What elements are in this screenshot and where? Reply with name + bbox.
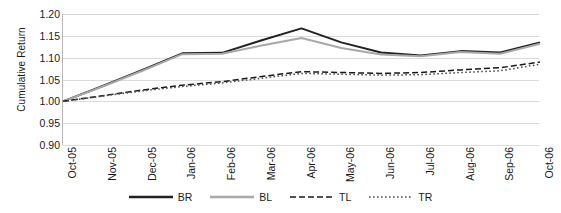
y-tick-label: 1.05 — [40, 74, 60, 86]
x-tick-label: Jul-06 — [424, 147, 436, 176]
legend-swatch-tr-icon — [369, 191, 413, 203]
x-tick-label: Dec-05 — [146, 147, 158, 181]
x-tick-label: May-06 — [344, 147, 356, 182]
chart-container: Cumulative Return 0.900.951.001.051.101.… — [0, 0, 561, 213]
legend-item-bl[interactable]: BL — [210, 191, 290, 203]
plot-area — [62, 14, 539, 145]
legend-label: BL — [259, 191, 272, 203]
x-tick-label: Jan-06 — [185, 147, 197, 179]
legend-swatch-bl-icon — [210, 191, 254, 203]
x-tick-label: Feb-06 — [225, 147, 237, 180]
x-tick-label: Aug-06 — [464, 147, 476, 181]
legend-item-tl[interactable]: TL — [290, 191, 369, 203]
legend-label: BR — [178, 191, 193, 203]
legend-item-tr[interactable]: TR — [369, 191, 432, 203]
legend-label: TL — [339, 191, 351, 203]
legend-swatch-br-icon — [129, 191, 173, 203]
y-tick-label: 1.15 — [40, 30, 60, 42]
x-tick-label: Mar-06 — [265, 147, 277, 180]
series-line-tl — [63, 62, 540, 101]
legend-item-br[interactable]: BR — [129, 191, 211, 203]
x-axis-tick-labels: Oct-05Nov-05Dec-05Jan-06Feb-06Mar-06Apr-… — [62, 147, 539, 193]
series-lines — [63, 14, 540, 145]
y-tick-label: 0.95 — [40, 117, 60, 129]
y-tick-label: 1.10 — [40, 52, 60, 64]
x-tick-label: Oct-06 — [543, 147, 555, 179]
y-tick-label: 0.90 — [40, 139, 60, 151]
y-tick-label: 1.20 — [40, 8, 60, 20]
y-tick-label: 1.00 — [40, 95, 60, 107]
legend-swatch-tl-icon — [290, 191, 334, 203]
x-tick-label: Nov-05 — [106, 147, 118, 181]
x-tick-label: Apr-06 — [305, 147, 317, 179]
legend-label: TR — [418, 191, 432, 203]
y-axis-tick-labels: 0.900.951.001.051.101.151.20 — [16, 0, 60, 213]
x-tick-label: Sep-06 — [503, 147, 515, 181]
x-tick-label: Oct-05 — [66, 147, 78, 179]
chart-legend: BRBLTLTR — [0, 191, 561, 203]
x-tick-label: Jun-06 — [384, 147, 396, 179]
gridline — [63, 145, 539, 146]
